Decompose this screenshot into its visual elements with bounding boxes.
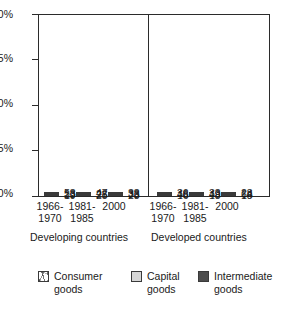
legend-item-capital-goods[interactable]: Capital goods: [131, 270, 180, 295]
bar-developed-1981-1985[interactable]: 33 49 18: [189, 192, 204, 196]
legend-item-consumer-goods[interactable]: Consumer goods: [38, 270, 102, 295]
plot-area: 58 23 19 47 28 25 38: [38, 14, 270, 197]
y-axis-tick-label-0: 0%: [0, 188, 13, 199]
x-label-line2: 1985: [55, 212, 109, 224]
y-axis-tick-label-50: 50%: [0, 98, 13, 109]
bar-developed-1966-1970[interactable]: 36 48 16: [157, 192, 172, 196]
segment-intermediate: 25: [76, 194, 91, 196]
capital-goods-swatch-icon: [131, 271, 142, 282]
consumer-goods-swatch-icon: [38, 271, 49, 282]
segment-intermediate: 18: [189, 194, 204, 196]
segment-value-intermediate: 18: [209, 190, 221, 201]
segment-value-intermediate: 19: [64, 190, 76, 201]
bar-developing-1981-1985[interactable]: 47 28 25: [76, 192, 91, 196]
segment-value-intermediate: 16: [177, 190, 189, 201]
x-label-line1: 2000: [200, 200, 254, 212]
segment-intermediate: 18: [221, 194, 236, 196]
segment-value-intermediate: 25: [96, 190, 108, 201]
x-axis-label-developing-2000: 2000: [87, 200, 141, 212]
x-axis-label-developed-2000: 2000: [200, 200, 254, 212]
stacked-bar-chart: 100% 75% 50% 25% 0% 58 23 19: [0, 0, 285, 255]
legend-item-intermediate-goods[interactable]: Intermediate goods: [198, 270, 272, 295]
legend-label-line2: goods: [54, 283, 102, 296]
y-axis-tick-label-75: 75%: [0, 53, 13, 64]
segment-value-intermediate: 28: [128, 190, 140, 201]
x-label-line1: 2000: [87, 200, 141, 212]
segment-intermediate: 19: [44, 194, 59, 196]
legend-label-intermediate-goods: Intermediate goods: [214, 270, 272, 295]
x-label-line2: 1985: [168, 212, 222, 224]
chart-legend: Consumer goods Capital goods Intermediat…: [0, 262, 285, 310]
segment-intermediate: 16: [157, 194, 172, 196]
group-separator: [148, 15, 149, 196]
legend-label-capital-goods: Capital goods: [147, 270, 180, 295]
legend-label-line2: goods: [147, 283, 180, 296]
y-axis-tick-label-25: 25%: [0, 143, 13, 154]
legend-label-consumer-goods: Consumer goods: [54, 270, 102, 295]
y-axis-tick-label-100: 100%: [0, 9, 13, 20]
legend-label-line1: Consumer: [54, 270, 102, 283]
bar-developing-1966-1970[interactable]: 58 23 19: [44, 192, 59, 196]
intermediate-goods-swatch-icon: [198, 271, 209, 282]
segment-intermediate: 28: [108, 194, 123, 196]
bar-developed-2000[interactable]: 28 64 18: [221, 192, 236, 196]
legend-label-line1: Capital: [147, 270, 180, 283]
segment-value-intermediate: 18: [241, 190, 253, 201]
legend-label-line2: goods: [214, 283, 272, 296]
group-label-developing-countries: Developing countries: [30, 232, 128, 243]
bar-developing-2000[interactable]: 38 33 28: [108, 192, 123, 196]
legend-label-line1: Intermediate: [214, 270, 272, 283]
group-label-developed-countries: Developed countries: [151, 232, 247, 243]
